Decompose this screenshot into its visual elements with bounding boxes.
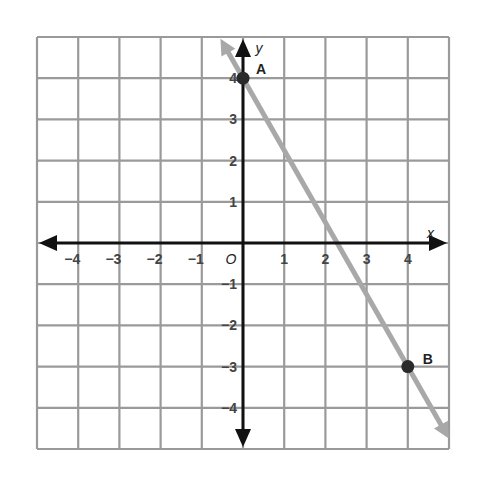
y-tick-label: 4 bbox=[229, 70, 237, 86]
y-tick-label: −4 bbox=[221, 400, 237, 416]
point-b bbox=[401, 360, 414, 373]
y-tick-label: −1 bbox=[221, 276, 237, 292]
y-axis-label: y bbox=[255, 40, 264, 56]
line-segment bbox=[224, 46, 444, 432]
axes bbox=[39, 39, 447, 447]
coordinate-plane: −4−3−2−112344321−1−2−3−4Oxy AB bbox=[0, 0, 481, 483]
y-tick-label: 3 bbox=[229, 111, 237, 127]
x-tick-label: 4 bbox=[404, 251, 412, 267]
y-axis-arrow-up-icon bbox=[235, 39, 251, 57]
origin-label: O bbox=[226, 251, 237, 267]
y-axis-arrow-down-icon bbox=[235, 429, 251, 447]
point-label-a: A bbox=[256, 61, 266, 77]
line-ab bbox=[220, 39, 448, 439]
x-tick-label: −3 bbox=[105, 251, 121, 267]
x-tick-label: 3 bbox=[363, 251, 371, 267]
y-tick-label: 1 bbox=[229, 194, 237, 210]
x-tick-label: 2 bbox=[322, 251, 330, 267]
y-tick-label: 2 bbox=[229, 153, 237, 169]
x-tick-label: 1 bbox=[280, 251, 288, 267]
y-tick-label: −2 bbox=[221, 317, 237, 333]
point-a bbox=[237, 72, 250, 85]
x-tick-label: −2 bbox=[147, 251, 163, 267]
x-axis-label: x bbox=[426, 225, 435, 241]
x-axis-arrow-left-icon bbox=[39, 235, 57, 251]
x-tick-label: −1 bbox=[188, 251, 204, 267]
y-tick-label: −3 bbox=[221, 359, 237, 375]
point-label-b: B bbox=[423, 351, 433, 367]
x-tick-label: −4 bbox=[64, 251, 80, 267]
